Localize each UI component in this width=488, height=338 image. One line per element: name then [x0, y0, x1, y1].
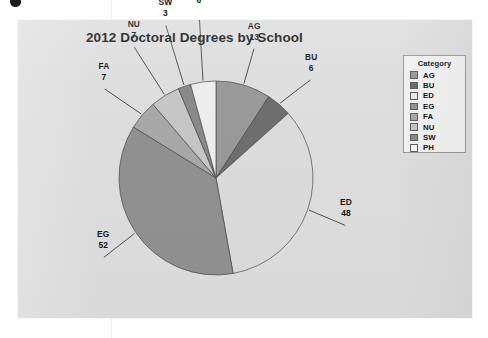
legend-label: PH	[423, 143, 434, 152]
data-label-ag: AG13	[248, 21, 261, 43]
legend-label: FA	[423, 112, 433, 121]
legend-items: AGBUEDEGFANUSWPH	[404, 70, 465, 153]
legend-swatch-nu	[410, 123, 418, 131]
data-label-nu: NU7	[128, 19, 140, 41]
data-label-value: 6	[305, 63, 317, 74]
legend-swatch-ag	[410, 71, 418, 79]
legend-item-fa[interactable]: FA	[404, 112, 465, 122]
legend-item-ed[interactable]: ED	[404, 91, 465, 101]
data-label-name: FA	[98, 61, 109, 71]
data-label-sw: SW3	[159, 0, 173, 19]
data-label-name: SW	[159, 0, 173, 7]
data-label-name: AG	[248, 21, 261, 31]
data-label-fa: FA7	[98, 61, 109, 83]
data-label-value: 48	[340, 208, 352, 219]
data-label-name: EG	[97, 229, 109, 239]
leader-line-fa	[105, 89, 141, 114]
legend: Category AGBUEDEGFANUSWPH	[403, 55, 466, 153]
leader-line-sw	[166, 25, 184, 84]
legend-item-nu[interactable]: NU	[404, 122, 465, 132]
legend-swatch-sw	[410, 134, 418, 142]
data-label-bu: BU6	[305, 52, 317, 74]
legend-item-eg[interactable]: EG	[404, 101, 465, 111]
data-label-value: 7	[128, 30, 140, 41]
legend-item-sw[interactable]: SW	[404, 132, 465, 142]
legend-label: BU	[423, 81, 434, 90]
data-label-name: NU	[128, 19, 140, 29]
data-label-value: 52	[97, 240, 109, 251]
data-label-name: ED	[340, 197, 352, 207]
legend-item-ph[interactable]: PH	[404, 143, 465, 153]
data-label-ph: PH6	[193, 0, 205, 6]
legend-swatch-fa	[410, 113, 418, 121]
leader-line-ph	[199, 20, 203, 80]
legend-label: ED	[423, 91, 434, 100]
data-label-eg: EG52	[97, 229, 109, 251]
leader-line-bu	[280, 80, 310, 103]
legend-swatch-ed	[410, 92, 418, 100]
legend-label: EG	[423, 102, 434, 111]
legend-label: AG	[423, 71, 435, 80]
leader-line-ag	[244, 49, 254, 84]
data-label-value: 13	[248, 32, 261, 43]
data-label-value: 7	[98, 72, 109, 83]
legend-title: Category	[404, 59, 465, 68]
pie-slices	[119, 81, 313, 275]
legend-label: SW	[423, 133, 436, 142]
legend-item-ag[interactable]: AG	[404, 70, 465, 80]
leader-line-nu	[134, 47, 164, 94]
data-label-ed: ED48	[340, 197, 352, 219]
data-label-name: BU	[305, 52, 317, 62]
legend-swatch-bu	[410, 82, 418, 90]
data-label-value: 3	[159, 8, 173, 19]
page-ink-mark	[9, 0, 22, 8]
legend-item-bu[interactable]: BU	[404, 80, 465, 90]
chart-panel: 2012 Doctoral Degrees by School AG13BU6E…	[18, 20, 472, 318]
legend-swatch-eg	[410, 103, 418, 111]
legend-swatch-ph	[410, 144, 418, 152]
legend-label: NU	[423, 123, 434, 132]
data-label-value: 6	[193, 0, 205, 6]
